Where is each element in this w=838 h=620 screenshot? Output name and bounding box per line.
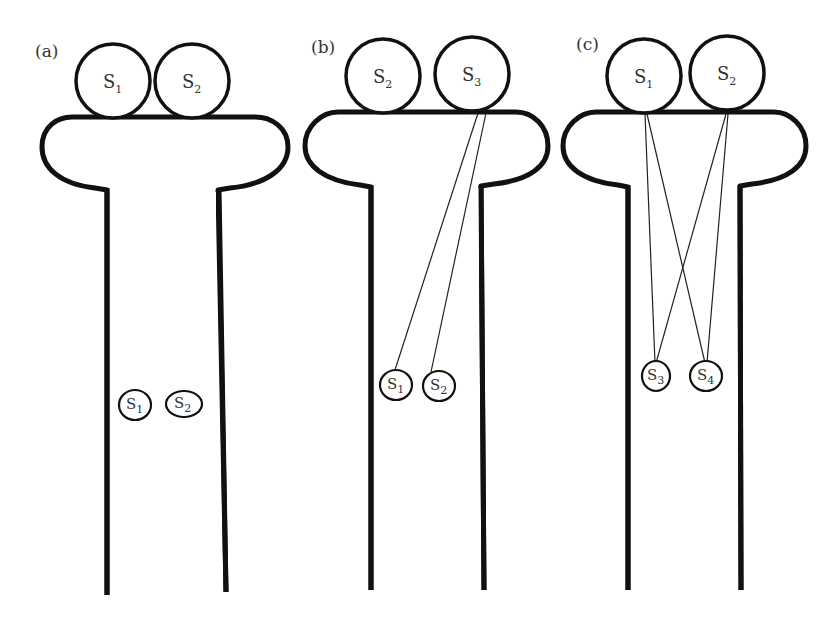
panel-c-surface-circle-2: S2 [690,36,764,110]
symbol-subscript: 1 [115,83,122,96]
panel-a-surface-circle-2: S2 [155,44,229,118]
panel-b-surface-circle-2: S3 [435,37,509,111]
panel-c-surface-circle-1: S1 [607,39,681,113]
panel-b-stem-right [481,185,484,590]
panel-a-label: (a) [35,41,58,61]
panel-c: (c) S1 S2 S3 S4 [563,34,806,608]
symbol-subscript: 2 [194,83,201,96]
panel-c-internal-circle-1: S3 [642,361,670,391]
panel-c-internal-circle-2: S4 [690,361,722,391]
panel-a-internal-circle-2: S2 [166,391,202,417]
panel-a-internal-circle-1: S1 [119,390,151,420]
panel-b: (b) S2 S3 S1 S2 [305,37,548,608]
diagram-canvas: (a) S1 S2 S1 S2 (b) [0,0,838,620]
panel-a-surface-circle-1: S1 [76,44,150,118]
panel-b-label: (b) [311,37,335,57]
panel-b-internal-circle-2: S2 [423,371,455,401]
symbol-base: S [103,71,115,92]
panel-a: (a) S1 S2 S1 S2 [35,41,288,612]
panel-c-label: (c) [576,34,599,54]
panel-b-surface-circle-1: S2 [346,39,420,113]
panel-b-internal-circle-1: S1 [380,370,412,400]
symbol-base: S [182,71,194,92]
panel-c-stem-right [740,185,741,590]
panel-c-stem-interior [631,188,737,608]
